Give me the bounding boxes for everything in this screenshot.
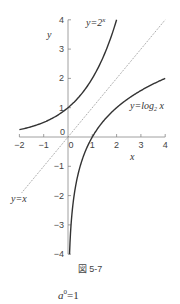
x-tick-label: 0 bbox=[68, 140, 73, 150]
label-y-equals-log2-x: y=log2 x bbox=[129, 100, 164, 112]
y-tick-label: 4 bbox=[59, 15, 64, 25]
x-axis-label: x bbox=[129, 151, 135, 162]
y-tick-label: −3 bbox=[54, 220, 64, 230]
y-tick-label: 2 bbox=[59, 73, 64, 83]
figure-caption: 図 5-7 bbox=[0, 262, 180, 275]
y-tick-label: −1 bbox=[54, 161, 64, 171]
y-tick-label: −2 bbox=[54, 191, 64, 201]
x-tick-label: 2 bbox=[114, 140, 119, 150]
label-y-equals-2-to-x: y=2x bbox=[85, 16, 106, 28]
x-tick-label: 4 bbox=[163, 140, 168, 150]
y-axis-label: y bbox=[46, 29, 52, 40]
label-y-equals-x: y=x bbox=[10, 193, 27, 204]
x-tick-label: −2 bbox=[14, 140, 24, 150]
y-tick-label: −4 bbox=[54, 249, 64, 259]
x-tick-label: −1 bbox=[39, 140, 49, 150]
formula-rest: =1 bbox=[67, 289, 79, 301]
x-tick-label: 3 bbox=[138, 140, 143, 150]
y-tick-label: 3 bbox=[59, 44, 64, 54]
function-graph: −2−10123443210−1−2−3−4yxy=2xy=log2 xy=x bbox=[0, 0, 180, 280]
formula-a-zero-equals-one: a0=1 bbox=[58, 288, 79, 301]
origin-label: 0 bbox=[60, 127, 65, 137]
